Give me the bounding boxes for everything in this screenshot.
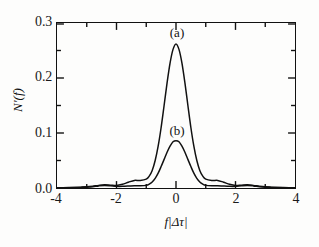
x-tick-label-0: 0 [156,192,196,206]
annotation-b: (b) [160,123,194,139]
y-axis-title: N′(f) [10,65,26,135]
x-axis-title: f|Δτ| [56,214,296,230]
x-axis-tick-labels: -4 -2 0 2 4 [0,192,319,214]
axis-ticks [57,23,295,188]
x-tick-label--4: -4 [36,192,76,206]
x-tick-label-2: 2 [216,192,256,206]
y-tick-label-0.3: 0.3 [6,15,52,29]
chart-figure: 0.3 0.2 0.1 0.0 N′(f) (a) (b) -4 -2 0 2 … [0,0,319,247]
curves-svg [57,23,295,188]
annotation-a: (a) [160,25,194,41]
curve-series-a [57,44,295,188]
x-tick-label--2: -2 [96,192,136,206]
x-tick-label-4: 4 [276,192,316,206]
curve-series-b [57,141,295,188]
plot-area: (a) (b) [56,22,296,189]
